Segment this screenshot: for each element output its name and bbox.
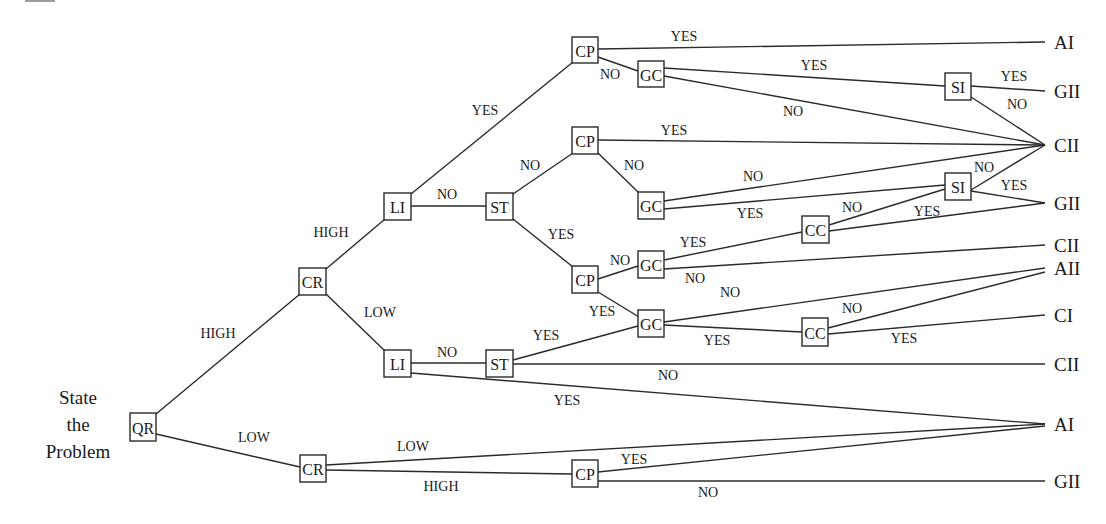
outcome-gii: GII — [1054, 193, 1080, 214]
start-label-line-3: Problem — [46, 441, 111, 462]
edge-label: NO — [842, 200, 862, 215]
decision-node-cc1: CC — [802, 216, 829, 243]
decision-node-st_hi: ST — [486, 193, 513, 220]
node-label: GC — [640, 316, 662, 333]
node-label: GC — [640, 67, 662, 84]
edge-label: YES — [1001, 69, 1027, 84]
edge-yes — [411, 62, 573, 194]
edge-label: NO — [610, 253, 630, 268]
decision-node-gc4: GC — [638, 310, 664, 337]
edge-no — [664, 76, 1045, 145]
edge-label: YES — [661, 123, 687, 138]
edge-yes — [971, 191, 1045, 203]
node-label: ST — [490, 356, 509, 373]
edge-yes — [513, 326, 638, 360]
outcome-gii: GII — [1054, 81, 1080, 102]
node-label: LI — [390, 356, 405, 373]
node-label: CP — [575, 133, 595, 150]
edge-label: NO — [658, 368, 678, 383]
node-label: SI — [951, 79, 965, 96]
edge-label: YES — [671, 29, 697, 44]
edge-yes — [664, 325, 802, 332]
edge-yes — [411, 373, 1045, 424]
node-label: GC — [640, 257, 662, 274]
edge-label: NO — [698, 485, 718, 500]
node-label: ST — [490, 199, 509, 216]
decision-node-li_lo: LI — [384, 350, 411, 377]
edge-label: YES — [589, 304, 615, 319]
decision-node-cp3: CP — [572, 266, 598, 293]
edge-label: HIGH — [424, 479, 459, 494]
decision-node-cc2: CC — [802, 318, 828, 346]
outcome-ai: AI — [1054, 414, 1074, 435]
edge-label: YES — [548, 227, 574, 242]
edge-label: NO — [1007, 97, 1027, 112]
outcome-ai: AI — [1054, 32, 1074, 53]
edge-labels-layer: HIGHLOWHIGHLOWNOYESNOYESNOYESYESNOYESNOY… — [201, 29, 1028, 500]
decision-node-gc2: GC — [638, 192, 664, 219]
edge-yes — [598, 426, 1045, 472]
outcome-cii: CII — [1054, 235, 1079, 256]
edge-label: NO — [974, 160, 994, 175]
decision-node-cr_lo: CR — [300, 455, 326, 482]
start-label-line-1: State — [59, 387, 97, 408]
edges-layer — [156, 42, 1045, 481]
edge-label: YES — [621, 452, 647, 467]
edge-label: HIGH — [201, 326, 236, 341]
edge-label: LOW — [238, 430, 271, 445]
edge-label: YES — [737, 206, 763, 221]
edge-label: YES — [680, 235, 706, 250]
decision-node-si2: SI — [945, 173, 971, 200]
edge-low — [156, 434, 300, 467]
edge-label: NO — [520, 158, 540, 173]
start-label-line-2: the — [66, 414, 89, 435]
decision-node-li_hi: LI — [384, 193, 411, 220]
edge-yes — [598, 42, 1045, 49]
edge-label: NO — [437, 345, 457, 360]
outcome-ci: CI — [1054, 305, 1073, 326]
node-label: CC — [805, 222, 826, 239]
edge-yes — [598, 140, 1045, 145]
edge-low — [326, 424, 1045, 465]
decision-node-cp2: CP — [572, 127, 598, 154]
node-label: CR — [302, 274, 324, 291]
decision-node-cp4: CP — [572, 460, 598, 487]
edge-label: YES — [801, 58, 827, 73]
decision-node-cp1: CP — [572, 37, 598, 63]
node-label: CP — [575, 466, 595, 483]
decision-node-st_lo: ST — [486, 350, 513, 377]
edge-label: YES — [914, 204, 940, 219]
outcome-aii: AII — [1054, 258, 1080, 279]
edge-label: NO — [600, 67, 620, 82]
edge-high — [156, 294, 300, 414]
edge-label: HIGH — [314, 225, 349, 240]
decision-node-si1: SI — [945, 73, 971, 100]
node-label: QR — [132, 420, 155, 437]
decision-node-gc1: GC — [638, 61, 664, 87]
edge-label: YES — [1001, 178, 1027, 193]
edge-low — [326, 294, 385, 351]
edge-label: YES — [472, 103, 498, 118]
nodes-layer: QRCRCRLILISTSTCPCPCPCPGCGCGCGCCCCCSISI — [130, 37, 971, 487]
edge-label: NO — [685, 271, 705, 286]
node-label: CP — [575, 272, 595, 289]
node-label: GC — [640, 198, 662, 215]
outcomes-layer: AIGIICIIGIICIIAIICICIIAIGII — [1054, 32, 1080, 492]
decision-node-cr_hi: CR — [299, 268, 326, 295]
node-label: CR — [302, 461, 324, 478]
node-label: SI — [951, 179, 965, 196]
decision-tree-diagram: HIGHLOWHIGHLOWNOYESNOYESNOYESYESNOYESNOY… — [0, 0, 1106, 524]
edge-label: NO — [842, 301, 862, 316]
edge-no — [598, 266, 638, 279]
edge-label: NO — [624, 158, 644, 173]
edge-high — [326, 470, 572, 474]
edge-label: NO — [783, 104, 803, 119]
edge-label: NO — [743, 169, 763, 184]
edge-label: LOW — [364, 305, 397, 320]
outcome-cii: CII — [1054, 135, 1079, 156]
edge-yes — [664, 185, 945, 209]
node-label: CC — [804, 325, 825, 342]
edge-label: YES — [533, 328, 559, 343]
edge-label: LOW — [397, 439, 430, 454]
edge-label: YES — [891, 331, 917, 346]
